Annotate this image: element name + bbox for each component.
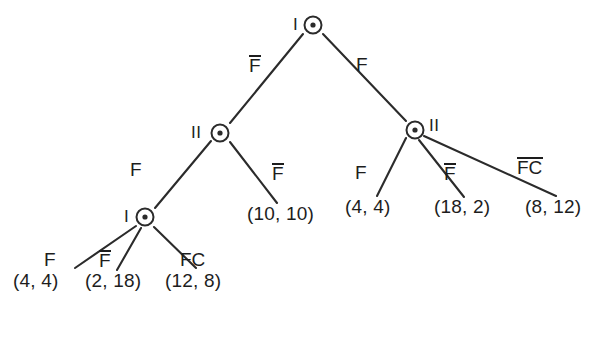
node-root-dot [310,22,315,27]
node-left-two-dot [217,130,222,135]
action-label-root-right: F [356,55,368,74]
action-label-left-one-a: F [44,250,56,269]
action-text-root-left: F [249,55,261,75]
action-label-left-two-left: F [130,160,142,179]
payoff-right-two-b: (18, 2) [434,197,490,216]
action-text-left-one-c: FC [180,249,205,270]
action-text-left-two-left: F [130,159,142,180]
edge-right-two-to-payoff-18-2 [419,140,464,197]
edge-group [75,34,556,270]
payoff-right-two-c: (8, 12) [525,197,581,216]
edge-root-to-right-two [323,34,406,121]
action-label-right-two-c: FC [517,157,542,177]
payoff-left-one-b: (2, 18) [85,271,141,290]
action-text-left-one-b: F [99,250,111,270]
game-tree-diagram: I II II I F F F F F F FC F F FC (10, 10) [0,0,615,344]
action-text-left-two-right: F [272,163,284,183]
payoff-left-one-c: (12, 8) [165,271,221,290]
payoff-left-one-a: (4, 4) [13,271,59,290]
action-text-root-right: F [356,54,368,75]
player-label-right-two: II [429,117,439,134]
payoff-left-two-right: (10, 10) [247,204,314,223]
action-text-right-two-b: F [444,163,456,183]
action-text-left-one-a: F [44,249,56,270]
action-text-right-two-a: F [355,162,367,183]
edge-left-two-to-left-one [155,141,211,208]
node-right-two-dot [412,127,417,132]
edge-right-two-to-payoff-4-4 [377,138,406,196]
action-label-right-two-a: F [355,163,367,182]
node-left-one-dot [142,214,147,219]
action-label-left-one-b: F [99,250,111,270]
action-label-root-left: F [249,55,261,75]
payoff-right-two-a: (4, 4) [345,197,391,216]
edge-root-to-left-two [230,34,303,123]
action-label-left-one-c: FC [180,250,205,269]
player-label-left-one: I [124,208,129,225]
edge-left-one-to-payoff-2-18 [117,228,141,270]
player-label-left-two: II [191,124,201,141]
player-label-root: I [293,16,298,33]
action-text-right-two-c: FC [517,157,542,177]
edge-left-two-to-payoff-10-10 [230,142,277,203]
action-label-right-two-b: F [444,163,456,183]
node-group [137,17,424,226]
action-label-left-two-right: F [272,163,284,183]
